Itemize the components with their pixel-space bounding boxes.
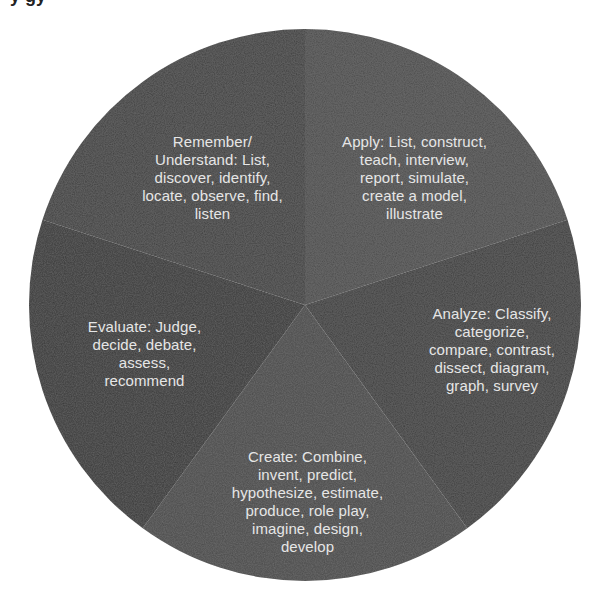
slice-label-remember-understand: Remember/ Understand: List, discover, id… <box>90 133 335 223</box>
slice-label-apply: Apply: List, construct, teach, interview… <box>312 133 517 223</box>
slice-label-create: Create: Combine, invent, predict, hypoth… <box>205 448 410 556</box>
slice-label-analyze: Analyze: Classify, categorize, compare, … <box>392 305 592 395</box>
slice-label-evaluate: Evaluate: Judge, decide, debate, assess,… <box>62 318 227 390</box>
